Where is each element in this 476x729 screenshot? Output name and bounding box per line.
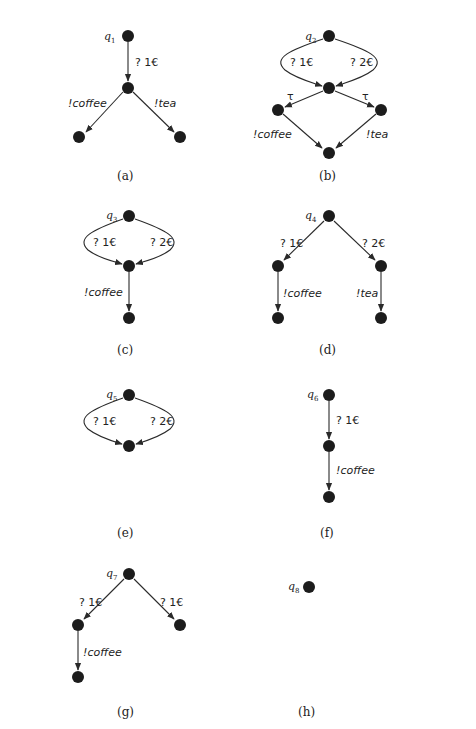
state-node <box>123 210 135 222</box>
state-node <box>122 30 134 42</box>
diagram-c: q3 ? 1€ ? 2€ !coffee (c) <box>84 209 174 357</box>
edge-label: ? 1€ <box>336 414 359 427</box>
state-label-q4: q4 <box>305 209 317 224</box>
caption-f: (f) <box>320 526 334 540</box>
edge-label: !coffee <box>283 287 322 300</box>
state-node <box>323 30 335 42</box>
state-node <box>72 619 84 631</box>
edge-label: !coffee <box>84 286 123 299</box>
state-node <box>323 389 335 401</box>
edge-label: ? 2€ <box>350 56 373 69</box>
state-node <box>72 671 84 683</box>
edge-label: !coffee <box>336 464 375 477</box>
diagram-e: q5 ? 1€ ? 2€ (e) <box>84 388 174 540</box>
edge-label: !tea <box>356 287 378 300</box>
edge-label: !tea <box>154 97 176 110</box>
state-node <box>323 491 335 503</box>
lts-figure: q1 ? 1€ !coffee !tea (a) q2 ? 1€ ? 2€ τ … <box>0 0 476 729</box>
diagram-b: q2 ? 1€ ? 2€ τ τ !coffee !tea (b) <box>253 30 388 183</box>
diagram-a: q1 ? 1€ !coffee !tea (a) <box>68 30 186 183</box>
edge-label: ? 1€ <box>160 596 183 609</box>
diagram-f: q6 ? 1€ !coffee (f) <box>307 388 375 540</box>
edge-label: ? 1€ <box>280 237 303 250</box>
edge-label: ? 2€ <box>150 415 173 428</box>
edge-label: !coffee <box>68 97 107 110</box>
edge-label: ? 2€ <box>150 236 173 249</box>
state-node <box>174 619 186 631</box>
caption-h: (h) <box>298 705 315 719</box>
state-node <box>303 581 315 593</box>
state-label-q6: q6 <box>307 388 319 403</box>
edge-label: !tea <box>366 128 388 141</box>
edge-label: ? 1€ <box>79 596 102 609</box>
diagram-h: q8 (h) <box>288 580 315 719</box>
state-node <box>323 82 335 94</box>
caption-d: (d) <box>319 343 336 357</box>
state-label-q8: q8 <box>288 580 300 595</box>
state-node <box>272 312 284 324</box>
state-label-q7: q7 <box>106 567 118 582</box>
state-node <box>323 210 335 222</box>
state-node <box>272 104 284 116</box>
state-node <box>174 131 186 143</box>
state-node <box>272 260 284 272</box>
edge-label: !coffee <box>253 128 292 141</box>
state-node <box>123 440 135 452</box>
caption-e: (e) <box>117 526 133 540</box>
state-node <box>375 312 387 324</box>
edge-label: ? 1€ <box>93 236 116 249</box>
state-node <box>73 131 85 143</box>
state-node <box>323 440 335 452</box>
state-node <box>123 260 135 272</box>
edge-label: ? 1€ <box>290 56 313 69</box>
caption-c: (c) <box>117 343 133 357</box>
edge-label: ? 1€ <box>93 415 116 428</box>
caption-b: (b) <box>319 169 336 183</box>
edge-label: ? 1€ <box>135 56 158 69</box>
caption-g: (g) <box>117 705 134 719</box>
edge-label: τ <box>287 90 294 103</box>
state-label-q1: q1 <box>104 30 116 45</box>
edge-label: τ <box>362 90 369 103</box>
state-node <box>123 389 135 401</box>
state-node <box>375 104 387 116</box>
caption-a: (a) <box>117 169 134 183</box>
state-node <box>122 82 134 94</box>
edge-label: !coffee <box>83 646 122 659</box>
state-node <box>123 568 135 580</box>
state-node <box>323 147 335 159</box>
diagram-d: q4 ? 1€ ? 2€ !coffee !tea (d) <box>272 209 387 357</box>
edge-label: ? 2€ <box>362 237 385 250</box>
state-node <box>375 260 387 272</box>
diagram-g: q7 ? 1€ ? 1€ !coffee (g) <box>72 567 186 719</box>
state-node <box>123 312 135 324</box>
